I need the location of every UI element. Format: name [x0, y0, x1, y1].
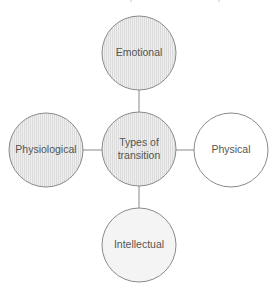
- node-label: Physiological: [15, 143, 76, 155]
- node-label: Emotional: [116, 46, 163, 58]
- node-label: Intellectual: [114, 238, 164, 250]
- node-physiological: Physiological: [9, 113, 83, 187]
- node-label-line-2: transition: [118, 149, 161, 161]
- node-center-types-of-transition: Types of transition: [102, 112, 176, 186]
- node-label-line-1: Types of: [119, 136, 159, 148]
- node-emotional: Emotional: [102, 16, 176, 90]
- node-intellectual: Intellectual: [102, 208, 176, 282]
- transition-types-diagram: Emotional Physiological Types of transit…: [0, 0, 276, 292]
- node-label: Physical: [211, 143, 250, 155]
- node-physical: Physical: [194, 113, 268, 187]
- cropped-text-fragments: [131, 0, 219, 2]
